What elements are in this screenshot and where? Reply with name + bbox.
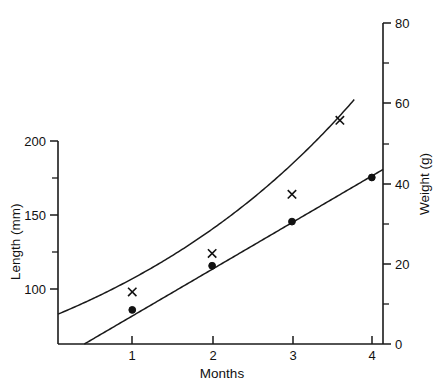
y-right-label-80: 80 [395,16,409,31]
weight-data-point [289,218,296,225]
y-right-label-0: 0 [395,337,402,352]
x-label-1: 1 [128,348,135,363]
weight-data-point [209,262,216,269]
y-axis-left-title: Length (mm) [8,203,23,280]
chart-canvas: 200 150 100 Length (mm) 80 60 40 20 0 We… [0,0,439,390]
x-label-3: 3 [289,348,296,363]
x-axis-title: Months [200,366,245,381]
plot-background [0,0,439,390]
growth-chart: 200 150 100 Length (mm) 80 60 40 20 0 We… [0,0,439,390]
y-axis-right-title: Weight (g) [417,153,432,215]
y-left-label-150: 150 [24,208,46,223]
y-left-label-100: 100 [24,282,46,297]
y-right-label-40: 40 [395,177,409,192]
y-right-label-60: 60 [395,96,409,111]
weight-data-point [368,174,375,181]
y-left-label-200: 200 [24,134,46,149]
x-label-2: 2 [209,348,216,363]
y-right-label-20: 20 [395,257,409,272]
weight-data-point [129,306,136,313]
x-label-4: 4 [368,348,375,363]
